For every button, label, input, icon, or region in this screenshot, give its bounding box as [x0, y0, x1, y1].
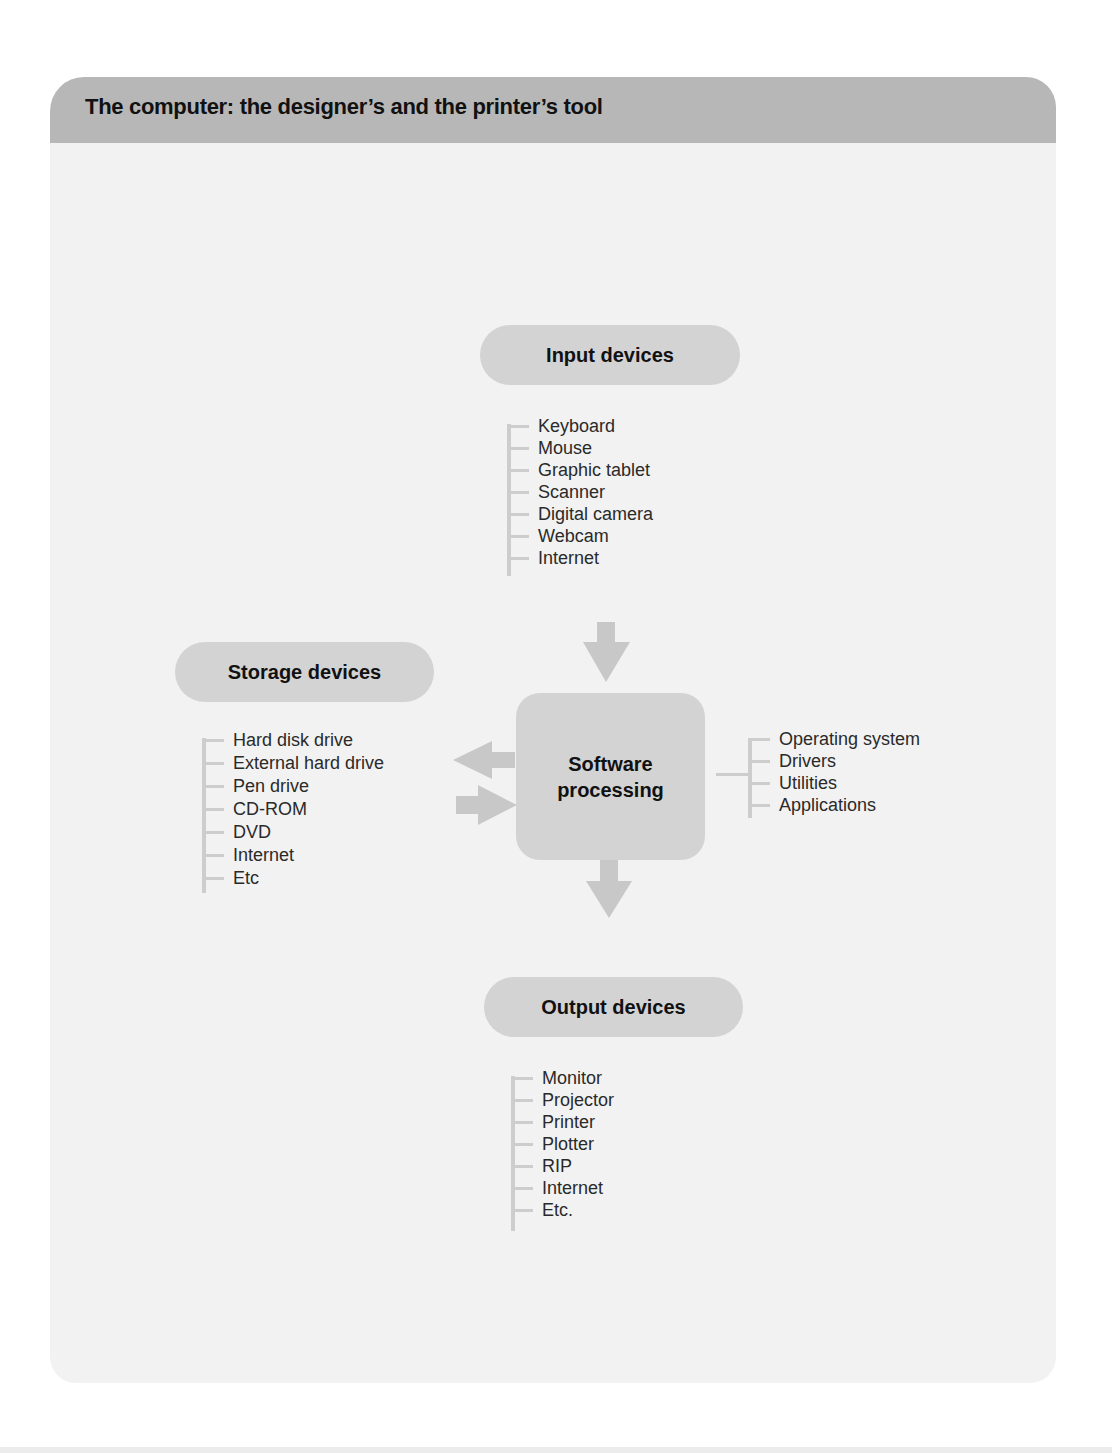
software-processing-node: Software processing	[516, 693, 705, 860]
output-devices-label: Output devices	[541, 996, 685, 1019]
storage-devices-label: Storage devices	[228, 661, 381, 684]
arrow-left-storage-icon	[453, 741, 515, 779]
processing-label-line2: processing	[557, 777, 664, 803]
input-devices-label: Input devices	[546, 344, 674, 367]
arrow-down-output-icon	[586, 860, 632, 918]
arrow-right-processing-icon	[456, 785, 517, 825]
arrow-down-input-icon	[583, 622, 630, 682]
storage-devices-node: Storage devices	[175, 642, 434, 702]
processing-connector	[716, 773, 750, 776]
output-devices-node: Output devices	[484, 977, 743, 1037]
processing-label-line1: Software	[557, 751, 664, 777]
input-devices-node: Input devices	[480, 325, 740, 385]
